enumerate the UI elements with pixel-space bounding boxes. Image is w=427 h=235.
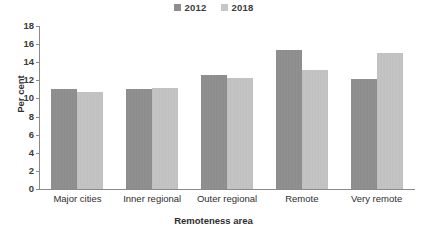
category-label: Outer regional [190,194,265,204]
y-tick-mark [36,171,40,172]
y-tick-label: 6 [29,130,34,140]
y-tick-mark [36,98,40,99]
y-tick-mark [36,26,40,27]
bar-group [51,26,103,189]
legend-entry-2012: 2012 [174,3,207,13]
bar [227,78,253,189]
bar [152,88,178,189]
legend-swatch-icon [221,4,228,11]
legend-swatch-icon [174,4,181,11]
category-label: Inner regional [115,194,190,204]
y-tick-mark [36,44,40,45]
category-label: Very remote [339,194,414,204]
bar-group [126,26,178,189]
y-tick-label: 4 [29,148,34,158]
x-axis-line [39,189,415,190]
bar [77,92,103,189]
chart-legend: 20122018 [0,3,427,13]
legend-label: 2012 [185,3,207,13]
bar [276,50,302,189]
y-tick-label: 18 [23,21,34,31]
y-tick-mark [36,117,40,118]
bar-group [201,26,253,189]
y-axis-title: Per cent [16,75,26,113]
x-axis-title: Remoteness area [0,216,427,226]
bar [201,75,227,189]
bar [51,89,77,189]
y-tick-mark [36,62,40,63]
y-tick-label: 2 [29,166,34,176]
bar-group [276,26,328,189]
y-tick-label: 14 [23,57,34,67]
category-label: Major cities [40,194,115,204]
y-tick-mark [36,153,40,154]
bar-group [351,26,403,189]
bar-chart: 20122018 024681012141618 Major citiesInn… [0,0,427,235]
plot-area: 024681012141618 Major citiesInner region… [40,26,414,189]
bar [126,89,152,189]
y-tick-mark [36,189,40,190]
y-axis-line [39,26,40,190]
bar [302,70,328,189]
bar [377,53,403,189]
category-label: Remote [264,194,339,204]
y-tick-label: 8 [29,112,34,122]
legend-entry-2018: 2018 [221,3,254,13]
legend-label: 2018 [232,3,254,13]
bar [351,79,377,189]
y-tick-label: 16 [23,39,34,49]
y-tick-mark [36,135,40,136]
y-tick-label: 0 [29,184,34,194]
y-tick-mark [36,80,40,81]
